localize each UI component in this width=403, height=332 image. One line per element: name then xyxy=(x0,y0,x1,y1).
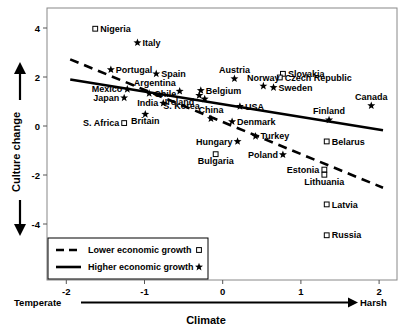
legend-label: Higher economic growth xyxy=(88,262,194,272)
data-point-label: Norway xyxy=(247,73,280,83)
y-axis-up-arrow-head xyxy=(14,62,26,74)
x-axis-tick-label: 0 xyxy=(220,286,225,297)
data-point-label: Lithuania xyxy=(304,177,345,187)
data-point-label: S. Africa xyxy=(83,118,120,128)
y-axis-title: Culture change xyxy=(10,112,22,192)
y-axis-tick-label: 0 xyxy=(35,121,40,132)
x-axis-tick-label: 2 xyxy=(376,286,381,297)
data-point-label: Argentina xyxy=(134,78,177,88)
y-axis-tick-label: 4 xyxy=(35,23,41,34)
data-point-label: Finland xyxy=(313,106,345,116)
data-point-label: Russia xyxy=(332,230,363,240)
data-point-marker-square xyxy=(93,26,98,31)
x-axis-title: Climate xyxy=(186,314,226,326)
x-axis-tick-label: -2 xyxy=(62,286,70,297)
data-point-label: Britain xyxy=(131,116,160,126)
y-axis-tick-label: -2 xyxy=(32,170,40,181)
data-point-label: Denmark xyxy=(237,117,277,127)
data-point-label: India xyxy=(137,98,159,108)
data-point-label: Canada xyxy=(355,92,389,102)
data-point-label: Belgium xyxy=(206,86,242,96)
data-point-label: Belarus xyxy=(332,137,365,147)
data-point-label: Bulgaria xyxy=(198,156,235,166)
x-axis-tick-label: -1 xyxy=(140,286,149,297)
data-point-label: Estonia xyxy=(287,165,321,175)
data-point-label: Italy xyxy=(142,38,160,48)
data-point-label: Turkey xyxy=(261,131,290,141)
data-point-label: Portugal xyxy=(116,65,153,75)
data-point-label: China xyxy=(198,105,224,115)
data-point-marker-square xyxy=(324,233,329,238)
data-point-label: Poland xyxy=(248,150,278,160)
x-axis-left-end-label: Temperate xyxy=(14,297,61,308)
data-point-label: Japan xyxy=(93,93,119,103)
chart-canvas: 420-2-4-2-1012NigeriaS. AfricaBulgariaSl… xyxy=(0,0,403,332)
x-axis-direction-arrow-head xyxy=(348,298,358,308)
x-axis-right-end-label: Harsh xyxy=(360,297,387,308)
y-axis-down-arrow-head xyxy=(14,224,26,236)
data-point-label: USA xyxy=(245,102,265,112)
y-axis-tick-label: -4 xyxy=(32,219,41,230)
scatter-plot-figure: 420-2-4-2-1012NigeriaS. AfricaBulgariaSl… xyxy=(0,0,403,332)
data-point-marker-square xyxy=(324,139,329,144)
data-point-label: Sweden xyxy=(279,83,313,93)
data-point-marker-square xyxy=(122,121,127,126)
data-point-label: Hungary xyxy=(196,137,233,147)
y-axis-tick-label: 2 xyxy=(35,72,40,83)
data-point-marker-square xyxy=(322,167,327,172)
legend-marker-square xyxy=(197,248,202,253)
data-point-label: Czech Republic xyxy=(285,73,352,83)
data-point-label: Nigeria xyxy=(100,24,132,34)
x-axis-tick-label: 1 xyxy=(298,286,304,297)
data-point-label: S. Korea xyxy=(163,101,201,111)
legend-box xyxy=(48,238,208,279)
data-point-marker-square xyxy=(324,202,329,207)
legend-label: Lower economic growth xyxy=(88,245,192,255)
data-point-label: Latvia xyxy=(332,200,359,210)
